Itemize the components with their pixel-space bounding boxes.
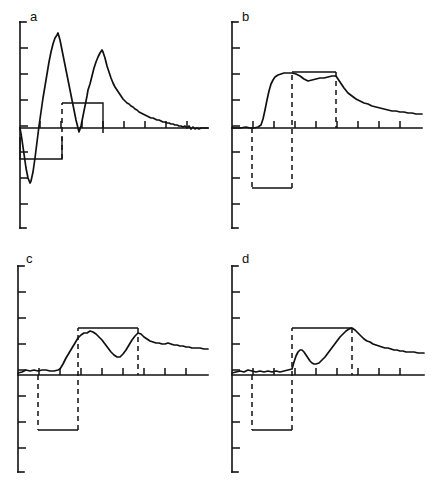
panel-c-x-axis	[18, 368, 208, 375]
panel-b-plot	[216, 0, 432, 240]
panel-c: c	[0, 240, 216, 480]
panel-a-plot	[0, 0, 216, 240]
panel-d-plot	[216, 240, 432, 480]
panel-c-stimulus-pulses	[38, 328, 138, 430]
panel-b-stimulus-pulses	[252, 72, 336, 188]
panel-d-y-axis	[232, 266, 240, 472]
panel-a-trace	[20, 33, 208, 183]
panel-d: d	[216, 240, 432, 480]
panel-d-stimulus-pulses	[252, 328, 352, 430]
panel-c-trace	[18, 331, 208, 373]
panel-b: b	[216, 0, 432, 240]
panel-a: a	[0, 0, 216, 240]
panel-c-y-axis	[18, 266, 26, 472]
panel-b-y-axis	[232, 22, 240, 228]
panel-a-x-axis	[20, 121, 208, 128]
panel-d-trace	[232, 328, 424, 373]
panel-c-plot	[0, 240, 216, 480]
panel-a-y-axis	[20, 22, 28, 228]
panel-b-trace	[232, 73, 422, 128]
figure-container: a	[0, 0, 432, 480]
panel-a-stimulus-pulses	[20, 103, 103, 159]
